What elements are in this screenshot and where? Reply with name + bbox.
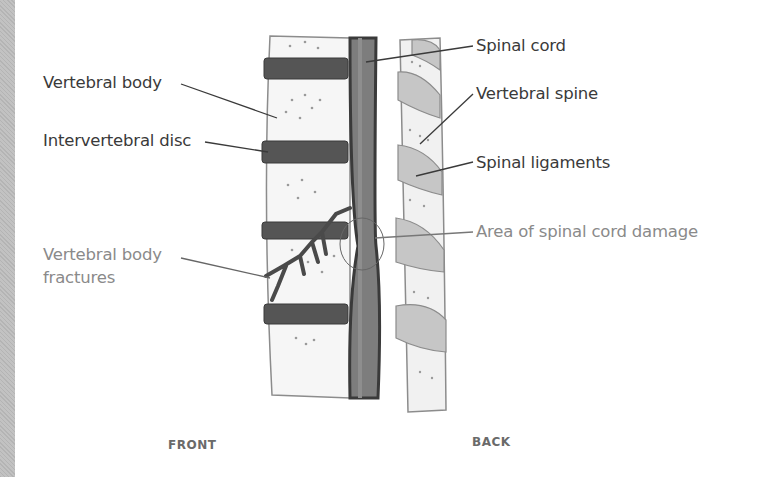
label-vertebral-body-fractures-line2: fractures: [43, 266, 115, 290]
label-vertebral-body: Vertebral body: [43, 71, 162, 95]
label-intervertebral-disc: Intervertebral disc: [43, 129, 191, 153]
caption-front: FRONT: [168, 438, 216, 452]
label-vertebral-body-fractures-line1: Vertebral body: [43, 243, 162, 267]
caption-back: BACK: [472, 435, 511, 449]
label-spinal-ligaments: Spinal ligaments: [476, 151, 610, 175]
label-spinal-cord: Spinal cord: [476, 34, 566, 58]
label-spinal-cord-damage: Area of spinal cord damage: [476, 220, 698, 244]
label-vertebral-spine: Vertebral spine: [476, 82, 598, 106]
